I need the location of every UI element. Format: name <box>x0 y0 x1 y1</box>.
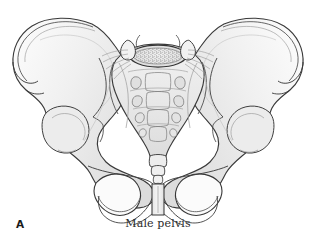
sacral-foramen-left-2 <box>132 96 142 107</box>
male-pelvis-illustration <box>0 0 316 251</box>
sacral-foramen-left-3 <box>135 113 144 123</box>
l5-body-cancellous-stipple <box>134 48 183 64</box>
acetabulum-right <box>227 106 274 153</box>
sacral-foramen-right-4 <box>170 129 177 137</box>
acetabulum-left <box>42 106 89 153</box>
coccyx-segment-3 <box>153 175 163 184</box>
coccyx-segment-2 <box>151 166 165 176</box>
sacral-foramen-right-3 <box>172 113 181 123</box>
figure-root: A Male pelvis <box>0 0 316 251</box>
sacral-foramen-left-4 <box>139 129 146 137</box>
sacral-foramen-left-1 <box>131 77 141 89</box>
sacral-foramen-right-1 <box>175 77 185 89</box>
figure-caption: Male pelvis <box>0 218 316 231</box>
sacral-foramen-right-2 <box>174 96 184 107</box>
